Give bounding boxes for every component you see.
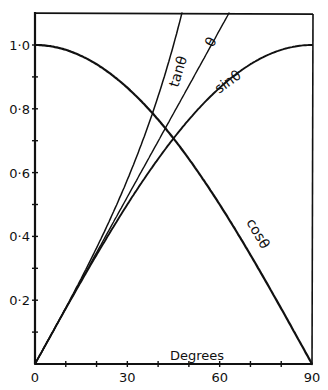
y-tick-label: 0·8 — [9, 102, 30, 117]
x-tick-label: 60 — [211, 370, 228, 385]
y-tick-label: 0·4 — [9, 229, 30, 244]
x-axis-title: Degrees — [170, 348, 224, 363]
y-tick-label: 1·0 — [9, 38, 30, 53]
axis-ticks — [32, 45, 281, 367]
tan-curve — [35, 13, 182, 364]
cos-label: cosθ — [243, 216, 273, 252]
sin-curve — [35, 45, 312, 364]
y-tick-label: 0·6 — [9, 166, 30, 181]
cos-curve — [35, 45, 312, 364]
x-tick-label: 30 — [119, 370, 136, 385]
trig-functions-chart: 03060900·20·40·60·81·0 tanθ θ sinθ cosθ … — [0, 0, 328, 390]
right-border — [312, 14, 313, 364]
y-tick-label: 0·2 — [9, 293, 30, 308]
x-tick-label: 0 — [31, 370, 39, 385]
theta-label: θ — [202, 34, 220, 49]
top-border — [35, 13, 313, 14]
axis-tick-labels: 03060900·20·40·60·81·0 — [9, 38, 320, 385]
x-tick-label: 90 — [304, 370, 321, 385]
